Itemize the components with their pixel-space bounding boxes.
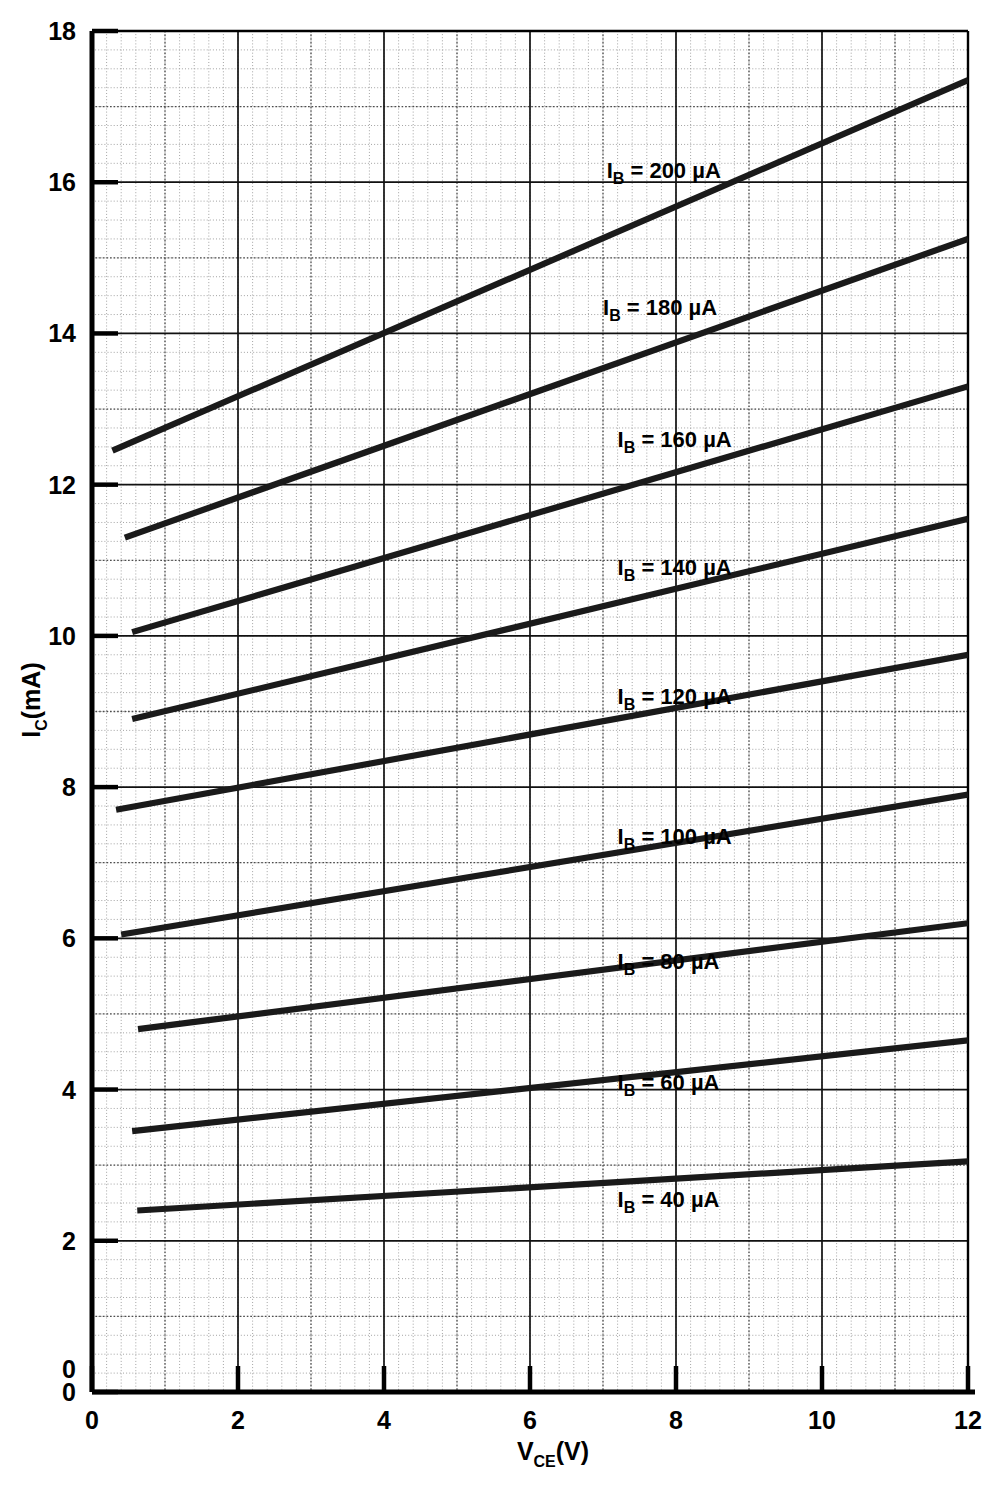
x-axis-title-unit: (V)	[556, 1437, 589, 1465]
x-axis-tick-label: 0	[85, 1406, 99, 1434]
y-axis-title-subscript: C	[33, 719, 50, 731]
curve-label-subscript: B	[613, 170, 625, 187]
y-axis-tick-label: 12	[48, 471, 76, 499]
curve-label-subscript: B	[624, 439, 636, 456]
curve-label-value: = 140 µA	[635, 555, 732, 580]
curve-label: IB = 140 µA	[618, 555, 732, 584]
x-axis-tick-label: 4	[377, 1406, 391, 1434]
y-axis-title-unit: (mA)	[17, 662, 45, 719]
curve-label-value: = 180 µA	[621, 295, 718, 320]
curve-label-value: = 60 µA	[635, 1070, 719, 1095]
y-axis-tick-label: 8	[62, 773, 76, 801]
x-axis-tick-label: 10	[808, 1406, 836, 1434]
y-axis-tick-label: 18	[48, 17, 76, 45]
curve-label-value: = 200 µA	[624, 158, 721, 183]
y-axis-tick-label: 14	[48, 319, 76, 347]
x-axis-tick-label: 2	[231, 1406, 245, 1434]
curve-label: IB = 200 µA	[607, 158, 721, 187]
x-axis-title-symbol: V	[517, 1437, 534, 1465]
curve-label-subscript: B	[609, 307, 621, 324]
y-axis-tick-label: 2	[62, 1227, 76, 1255]
curve-label-subscript: B	[624, 836, 636, 853]
curve-label-subscript: B	[624, 567, 636, 584]
curve-label-subscript: B	[624, 1082, 636, 1099]
x-axis-tick-label: 12	[954, 1406, 982, 1434]
characteristic-curves-chart: 024681012141618024681012 IB = 40 µAIB = …	[0, 0, 1001, 1494]
transistor-output-characteristics-figure: 024681012141618024681012 IB = 40 µAIB = …	[0, 0, 1001, 1494]
curve-label: IB = 120 µA	[618, 684, 732, 713]
y-axis-tick-label: 4	[62, 1076, 76, 1104]
curve-label-value: = 100 µA	[635, 824, 732, 849]
x-axis-title-subscript: CE	[534, 1453, 557, 1470]
curve-label-value: = 80 µA	[635, 949, 719, 974]
curve-label: IB = 180 µA	[603, 295, 717, 324]
curve-label-subscript: B	[624, 1199, 636, 1216]
x-axis-tick-label: 8	[669, 1406, 683, 1434]
origin-extra-zero-label: 0	[62, 1355, 76, 1383]
y-axis-tick-label: 10	[48, 622, 76, 650]
y-axis-tick-label: 16	[48, 168, 76, 196]
curve-label-value: = 160 µA	[635, 427, 732, 452]
y-axis-tick-label: 6	[62, 924, 76, 952]
x-axis-tick-label: 6	[523, 1406, 537, 1434]
curve-label-subscript: B	[624, 696, 636, 713]
curve-label-value: = 120 µA	[635, 684, 732, 709]
curve-label: IB = 100 µA	[618, 824, 732, 853]
y-axis-title-symbol: I	[17, 731, 45, 738]
curve-label-value: = 40 µA	[635, 1187, 719, 1212]
curve-label: IB = 160 µA	[618, 427, 732, 456]
curve-label-subscript: B	[624, 961, 636, 978]
